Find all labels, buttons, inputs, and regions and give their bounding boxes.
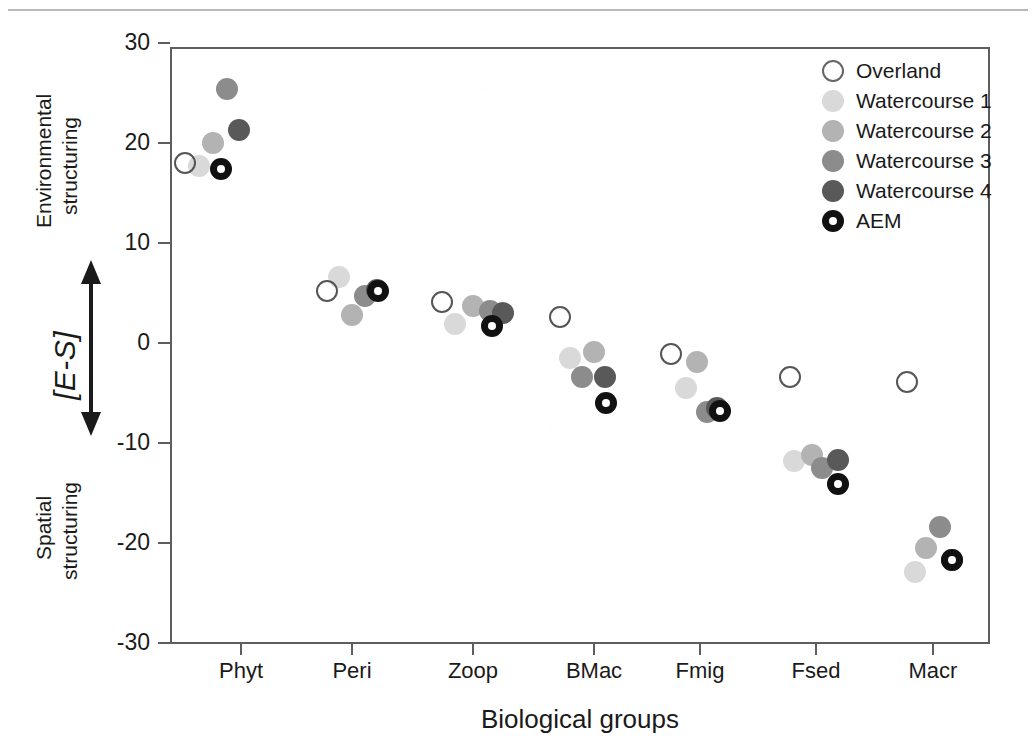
- legend-item-label: Watercourse 4: [856, 180, 992, 202]
- data-point-aem-center: [488, 322, 496, 330]
- legend-item-label: Watercourse 2: [856, 120, 992, 142]
- data-point-aem: [709, 400, 731, 422]
- legend: OverlandWatercourse 1Watercourse 2Waterc…: [822, 56, 1022, 236]
- legend-item[interactable]: Overland: [822, 56, 1022, 86]
- data-point-overland: [660, 343, 682, 365]
- y-axis-tick-label: -20: [90, 531, 150, 554]
- y-axis-bottom-annotation-line2: structuring: [58, 482, 81, 580]
- data-point-aem: [827, 473, 849, 495]
- data-point-aem: [367, 280, 389, 302]
- y-axis-double-arrow-icon: [78, 258, 104, 438]
- y-axis-tick-label: 20: [90, 131, 150, 154]
- data-point-aem-center: [217, 165, 225, 173]
- data-point-aem-center: [716, 407, 724, 415]
- x-axis-tick: [593, 644, 595, 655]
- data-point-watercourse: [583, 341, 605, 363]
- y-axis-top-annotation-line2: structuring: [58, 117, 81, 215]
- y-axis-tick: [158, 142, 170, 144]
- data-point-aem-center: [834, 480, 842, 488]
- data-point-watercourse: [216, 78, 238, 100]
- x-axis-tick: [472, 644, 474, 655]
- data-point-watercourse: [571, 366, 593, 388]
- data-point-watercourse: [675, 377, 697, 399]
- y-axis-tick: [158, 442, 170, 444]
- data-point-overland: [174, 152, 196, 174]
- y-axis-bottom-annotation-line1: Spatial: [32, 496, 55, 560]
- data-point-watercourse: [444, 313, 466, 335]
- data-point-aem: [941, 549, 963, 571]
- legend-item-label: AEM: [856, 210, 902, 232]
- data-point-watercourse: [594, 366, 616, 388]
- x-axis-tick-label: Zoop: [413, 659, 533, 683]
- y-axis-tick-label: 10: [90, 231, 150, 254]
- x-axis-tick-label: Fmig: [640, 659, 760, 683]
- data-point-aem-center: [374, 287, 382, 295]
- y-axis-tick: [158, 342, 170, 344]
- legend-item[interactable]: Watercourse 4: [822, 176, 1022, 206]
- y-axis-tick: [158, 542, 170, 544]
- y-axis-tick-label: 30: [90, 31, 150, 54]
- data-point-overland: [316, 280, 338, 302]
- x-axis-tick: [351, 644, 353, 655]
- data-point-watercourse: [686, 351, 708, 373]
- data-point-overland: [549, 306, 571, 328]
- data-point-watercourse: [827, 449, 849, 471]
- data-point-overland: [896, 371, 918, 393]
- legend-marker-bullseye-center: [829, 217, 837, 225]
- data-point-overland: [431, 291, 453, 313]
- data-point-watercourse: [904, 561, 926, 583]
- data-point-aem: [481, 315, 503, 337]
- data-point-watercourse: [228, 119, 250, 141]
- legend-item-label: Overland: [856, 60, 941, 82]
- y-axis-tick-label: -30: [90, 631, 150, 654]
- x-axis-title: Biological groups: [170, 705, 990, 733]
- data-point-aem-center: [602, 399, 610, 407]
- x-axis-tick-label: Fsed: [756, 659, 876, 683]
- legend-item[interactable]: Watercourse 1: [822, 86, 1022, 116]
- y-axis-title: [E-S]: [48, 331, 82, 400]
- data-point-watercourse: [929, 516, 951, 538]
- x-axis-tick-label: BMac: [534, 659, 654, 683]
- x-axis-tick-label: Macr: [873, 659, 993, 683]
- legend-item[interactable]: Watercourse 3: [822, 146, 1022, 176]
- y-axis-tick: [158, 642, 170, 644]
- figure-root: 3020100-10-20-30 PhytPeriZoopBMacFmigFse…: [0, 0, 1035, 753]
- data-point-aem: [595, 392, 617, 414]
- legend-item-label: Watercourse 1: [856, 90, 992, 112]
- y-axis-top-annotation: Environmental: [32, 94, 55, 228]
- legend-item[interactable]: Watercourse 2: [822, 116, 1022, 146]
- data-point-aem: [210, 158, 232, 180]
- legend-marker-bullseye-icon: [822, 210, 844, 232]
- legend-marker-filled-circle-icon: [822, 120, 844, 142]
- legend-marker-filled-circle-icon: [822, 180, 844, 202]
- y-axis-bottom-annotation-line2-wrap: structuring: [58, 482, 82, 580]
- legend-marker-filled-circle-icon: [822, 90, 844, 112]
- data-point-watercourse: [202, 132, 224, 154]
- x-axis-tick: [240, 644, 242, 655]
- data-point-watercourse: [341, 304, 363, 326]
- x-axis-tick: [932, 644, 934, 655]
- y-axis-bottom-annotation-line1-wrap: Spatial: [32, 496, 56, 560]
- scan-top-rule: [8, 9, 1028, 11]
- y-axis-top-annotation-line1: Environmental: [32, 94, 55, 228]
- y-axis-tick: [158, 42, 170, 44]
- legend-item-label: Watercourse 3: [856, 150, 992, 172]
- x-axis-tick: [699, 644, 701, 655]
- y-axis-top-annotation-line2-wrap: structuring: [58, 117, 82, 215]
- data-point-overland: [779, 366, 801, 388]
- legend-item[interactable]: AEM: [822, 206, 1022, 236]
- x-axis-tick-label: Phyt: [181, 659, 301, 683]
- x-axis-tick: [815, 644, 817, 655]
- x-axis-tick-label: Peri: [292, 659, 412, 683]
- legend-marker-open-circle-icon: [822, 60, 844, 82]
- legend-marker-filled-circle-icon: [822, 150, 844, 172]
- y-axis-tick: [158, 242, 170, 244]
- data-point-watercourse: [915, 537, 937, 559]
- data-point-aem-center: [948, 556, 956, 564]
